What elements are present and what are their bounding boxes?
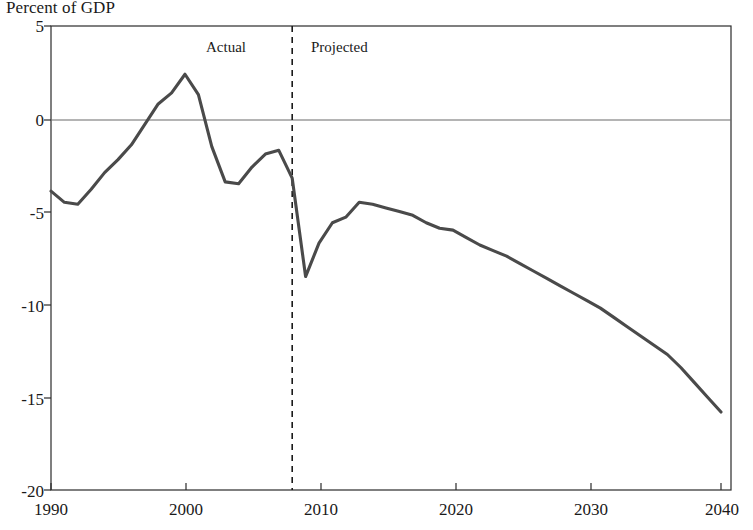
plot-frame [51,26,731,490]
chart-plot-area [0,0,753,530]
x-axis-ticks [51,483,721,490]
y-axis-ticks [44,26,51,490]
chart-figure: Percent of GDP 5 0 -5 -10 -15 -20 1990 2… [0,0,753,530]
data-series-line [51,74,721,412]
